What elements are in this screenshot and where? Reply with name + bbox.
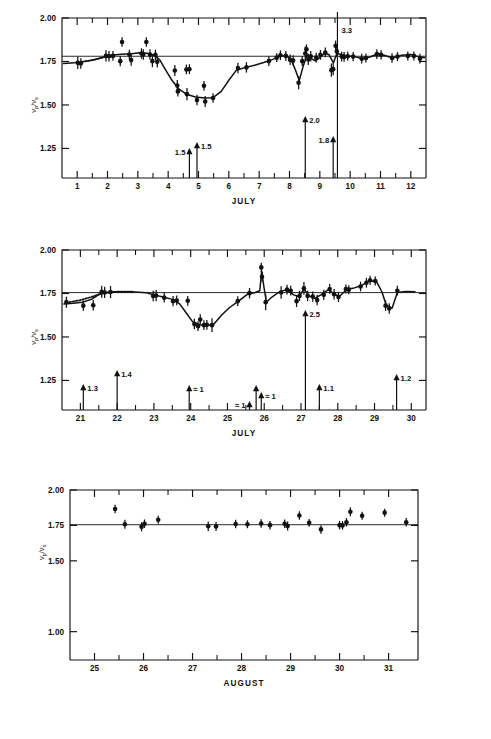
data-marker xyxy=(348,510,353,515)
data-marker xyxy=(113,507,118,512)
offscale-arrow: 1.1 xyxy=(316,384,334,410)
axis-frame xyxy=(62,18,426,178)
data-marker xyxy=(307,521,312,526)
x-tick-label: 23 xyxy=(149,414,159,423)
arrow-value-label: ≈ 1 xyxy=(193,385,204,394)
x-tick-label: 6 xyxy=(227,182,232,191)
x-tick-label: 11 xyxy=(376,182,385,191)
data-point xyxy=(173,65,178,76)
data-point xyxy=(79,58,84,68)
arrow-value-label: 1.1 xyxy=(323,384,334,393)
arrow-head xyxy=(316,384,322,390)
panel-july-1-12: 2.001.751.501.25123456789101112JULYνp/νs… xyxy=(0,0,491,232)
data-point xyxy=(118,56,123,66)
data-marker xyxy=(321,293,326,298)
data-point xyxy=(267,56,272,66)
data-marker xyxy=(412,54,417,59)
offscale-arrow: 1.2 xyxy=(393,374,411,410)
panel-july-21-30: 2.001.751.501.2521222324252627282930JULY… xyxy=(0,232,491,470)
fitted-curve xyxy=(64,53,425,98)
x-tick-label: 22 xyxy=(113,414,123,423)
arrow-head xyxy=(194,142,200,148)
data-point xyxy=(185,296,190,306)
arrow-value-label: ≈ 1 xyxy=(235,401,246,410)
plot-area-panel-2: 2.001.751.501.2521222324252627282930JULY… xyxy=(0,232,491,470)
data-point xyxy=(364,53,369,62)
data-marker xyxy=(305,294,310,299)
data-marker xyxy=(297,294,302,299)
data-point-group xyxy=(75,37,422,107)
y-tick-label: 1.75 xyxy=(48,521,64,530)
data-point xyxy=(395,286,400,296)
data-marker xyxy=(185,92,190,97)
data-marker xyxy=(129,58,134,63)
data-point xyxy=(244,62,249,72)
offscale-arrow: ≈ 1 xyxy=(258,392,276,410)
arrow-head xyxy=(330,136,336,142)
data-marker xyxy=(336,295,341,300)
data-marker xyxy=(323,50,328,55)
arrow-head xyxy=(80,384,86,390)
arrow-value-label: 1.4 xyxy=(121,370,132,379)
fitted-curve xyxy=(64,271,415,326)
data-marker xyxy=(148,52,153,57)
offscale-arrow: 2.0 xyxy=(302,116,320,178)
x-tick-label: 8 xyxy=(287,182,292,191)
offscale-arrow: 3.3 xyxy=(337,12,352,178)
data-point xyxy=(205,320,210,330)
data-point xyxy=(284,51,289,61)
data-marker xyxy=(364,56,369,61)
y-axis-title: νp/νs xyxy=(29,97,39,113)
x-tick-label: 25 xyxy=(90,664,100,673)
arrow-head xyxy=(246,401,252,407)
arrow-head xyxy=(186,385,192,391)
y-tick-label: 1.50 xyxy=(48,557,64,566)
y-tick-label: 2.00 xyxy=(40,14,56,23)
data-point xyxy=(390,53,395,63)
y-tick-label: 1.75 xyxy=(40,57,56,66)
data-marker xyxy=(285,524,290,529)
data-marker xyxy=(195,98,200,103)
data-point xyxy=(113,505,118,514)
x-tick-label: 29 xyxy=(370,414,380,423)
data-point xyxy=(211,93,216,103)
data-point xyxy=(336,292,341,302)
data-marker xyxy=(390,56,395,61)
data-point xyxy=(148,49,153,59)
arrow-head xyxy=(393,374,399,380)
data-point xyxy=(406,51,411,60)
data-marker xyxy=(210,323,215,328)
x-tick-label: 1 xyxy=(75,182,80,191)
data-point xyxy=(418,54,423,64)
data-marker xyxy=(154,293,159,298)
arrow-value-label: 1.5 xyxy=(201,142,212,151)
data-marker xyxy=(368,278,373,283)
arrow-head xyxy=(186,148,192,154)
data-point xyxy=(154,290,159,301)
data-point xyxy=(259,519,264,528)
offscale-arrow: 1.8 xyxy=(319,136,337,178)
data-point xyxy=(340,521,345,530)
offscale-arrow: ≈ 1 xyxy=(235,401,253,410)
data-point xyxy=(307,519,312,527)
svg-text:νp/νs: νp/νs xyxy=(29,329,39,345)
data-marker xyxy=(383,303,388,308)
data-marker xyxy=(395,54,400,59)
x-tick-label: 28 xyxy=(237,664,247,673)
y-tick-label: 1.75 xyxy=(40,289,56,298)
data-point xyxy=(404,518,409,527)
data-marker xyxy=(351,54,356,59)
arrow-value-label: 2.5 xyxy=(309,310,320,319)
data-point xyxy=(202,81,207,91)
arrow-value-label: 1.5 xyxy=(175,148,186,157)
data-marker xyxy=(81,303,86,308)
offscale-arrow: 1.5 xyxy=(194,142,212,178)
data-marker xyxy=(111,54,116,59)
arrow-value-label: ≈ 1 xyxy=(265,392,276,401)
data-marker xyxy=(279,290,284,295)
axis-frame xyxy=(70,490,418,660)
data-point xyxy=(348,507,353,516)
data-marker xyxy=(155,60,160,65)
x-tick-label: 27 xyxy=(188,664,198,673)
plot-area-panel-3: 2.001.751.501.0025262728293031AUGUSTνp/ν… xyxy=(0,470,491,739)
